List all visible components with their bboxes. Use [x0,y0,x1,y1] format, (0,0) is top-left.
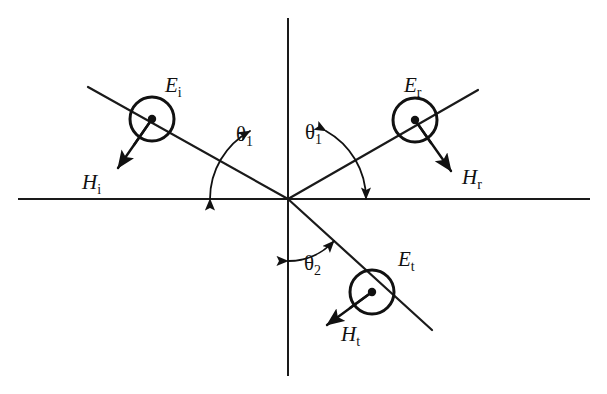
wave-reflection-refraction-diagram: Ei Hi Er Hr Et [0,0,607,394]
figure-canvas: Ei Hi Er Hr Et [0,0,607,394]
transmitted-e-field-label: Et [397,247,415,274]
incident-e-symbol: E [164,73,178,97]
reflected-h-field-label: Hr [461,165,482,192]
incident-e-field-label: Ei [164,73,182,100]
reflected-h-subscript: r [477,177,482,192]
theta-1-reflected-symbol: θ [305,120,315,144]
theta-2-transmitted-subscript: 2 [314,263,321,278]
transmitted-e-subscript: t [411,259,415,274]
theta-2-transmitted-symbol: θ [304,251,314,275]
incident-h-field-arrow [118,119,152,168]
reflected-e-field-label: Er [403,73,422,100]
reflected-h-field-arrow [415,120,451,171]
theta-1-incident-subscript: 1 [246,134,253,149]
incident-ray [88,87,288,199]
transmitted-e-symbol: E [397,247,411,271]
incident-e-subscript: i [178,85,182,100]
theta-2-transmitted-label: θ2 [304,251,321,278]
theta-1-reflected-label: θ1 [305,120,322,147]
theta-1-incident-symbol: θ [236,122,246,146]
transmitted-h-subscript: t [356,334,360,349]
transmitted-wave-group: Et Ht [327,247,415,349]
theta-1-incident-label: θ1 [236,122,253,149]
incident-h-field-label: Hi [81,170,101,197]
reflected-e-subscript: r [417,85,422,100]
theta-1-reflected-subscript: 1 [315,132,322,147]
reflected-wave-group: Er Hr [393,73,482,192]
transmitted-h-field-label: Ht [340,322,360,349]
reflected-e-symbol: E [403,73,417,97]
incident-h-subscript: i [97,182,101,197]
